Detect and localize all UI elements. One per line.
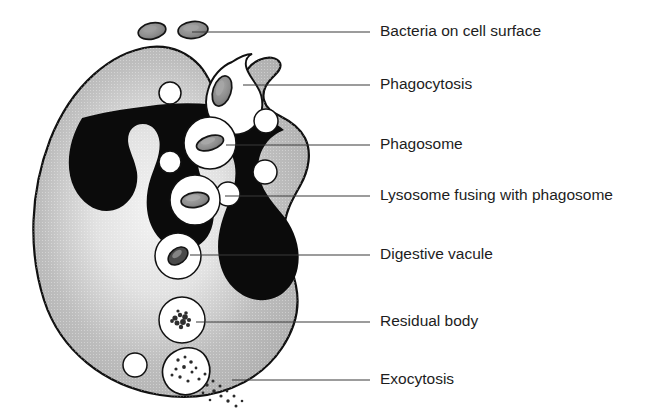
label-bacteria-on-cell-surface: Bacteria on cell surface: [380, 22, 541, 39]
surface-bacterium-2: [177, 20, 209, 40]
residual-body-vesicle: [159, 297, 205, 343]
digestive-vacuole: [155, 233, 201, 279]
lysosome-4: [253, 160, 277, 184]
surface-bacterium-1: [137, 20, 168, 41]
phagosome-vesicle: [184, 117, 236, 169]
lysosome-1: [159, 82, 181, 104]
lysosome-2: [254, 109, 278, 133]
label-phagosome: Phagosome: [380, 135, 463, 152]
lysosome-5: [123, 353, 147, 377]
label-exocytosis: Exocytosis: [380, 370, 454, 387]
labels-group: Bacteria on cell surface Phagocytosis Ph…: [380, 22, 613, 387]
phagocytosis-diagram: Bacteria on cell surface Phagocytosis Ph…: [0, 0, 648, 417]
label-lysosome-fusing-with-phagosome: Lysosome fusing with phagosome: [380, 186, 613, 203]
label-residual-body: Residual body: [380, 312, 478, 329]
label-phagocytosis: Phagocytosis: [380, 75, 472, 92]
label-digestive-vacule: Digestive vacule: [380, 245, 493, 262]
lysosome-3: [159, 151, 181, 173]
surface-bacteria-group: [137, 20, 209, 42]
